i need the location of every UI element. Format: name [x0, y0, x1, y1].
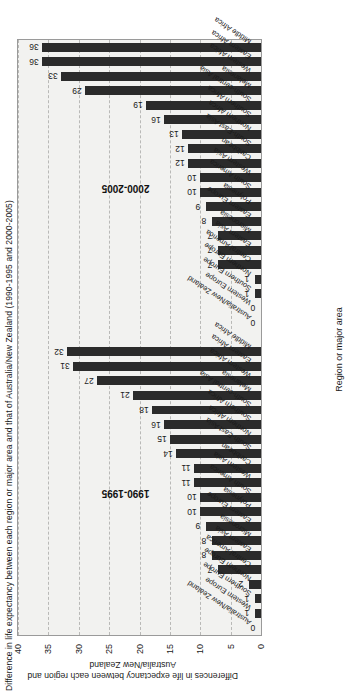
bar-value-label: 29	[72, 86, 81, 96]
bar-value-label: 13	[169, 129, 178, 139]
bar	[255, 609, 261, 618]
value-tick-15: 15	[165, 644, 175, 654]
bar-value-label: 10	[188, 187, 197, 197]
bar	[255, 289, 261, 298]
bar	[249, 580, 261, 589]
bar-value-label: 32	[54, 347, 63, 357]
value-tick-5: 5	[226, 644, 236, 649]
bar-value-label: 18	[139, 405, 148, 415]
bar-value-label: 11	[182, 478, 191, 488]
bar-value-label: 15	[157, 434, 166, 444]
bar-value-label: 8	[202, 216, 207, 226]
bar	[255, 275, 261, 284]
value-tick-0: 0	[256, 644, 266, 649]
value-axis-title: Differences in life expectancy between e…	[8, 659, 258, 680]
value-tick-40: 40	[13, 644, 23, 654]
bar-value-label: 0	[251, 303, 256, 313]
bar-value-label: 12	[175, 158, 184, 168]
value-tick-35: 35	[43, 644, 53, 654]
bar-value-label: 14	[163, 449, 172, 459]
value-tick-25: 25	[104, 644, 114, 654]
bar-value-label: 19	[133, 100, 142, 110]
bar-value-label: 12	[175, 144, 184, 154]
value-tick-30: 30	[74, 644, 84, 654]
chart-title: Difference in life expectancy between ea…	[4, 200, 14, 691]
bar-value-label: 36	[30, 57, 39, 67]
bar-value-label: 36	[30, 42, 39, 52]
panel-label-1990-1995: 1990-1995	[102, 487, 150, 498]
bar-value-label: 27	[84, 376, 93, 386]
bar-value-label: 10	[188, 507, 197, 517]
panel-label-2000-2005: 2000-2005	[102, 183, 150, 194]
bar-value-label: 33	[48, 71, 57, 81]
category-axis-title: Region or major area	[334, 0, 344, 699]
bar-value-label: 11	[182, 463, 191, 473]
bar-value-label: 10	[188, 492, 197, 502]
value-tick-10: 10	[195, 644, 205, 654]
bar-value-label: 0	[251, 318, 256, 328]
bar-value-label: 10	[188, 173, 197, 183]
chart-figure: Difference in life expectancy between ea…	[0, 0, 347, 699]
bar-slot: 0	[18, 620, 261, 635]
rotated-page-wrapper: Difference in life expectancy between ea…	[0, 0, 347, 699]
bar-value-label: 21	[121, 391, 130, 401]
bar	[255, 594, 261, 603]
value-tick-20: 20	[135, 644, 145, 654]
bar-value-label: 9	[196, 202, 201, 212]
bar-value-label: 16	[151, 420, 160, 430]
bar-value-label: 9	[196, 521, 201, 531]
value-axis: Differences in life expectancy between e…	[17, 636, 262, 699]
bar-value-label: 16	[151, 115, 160, 125]
bar-value-label: 0	[251, 623, 256, 633]
bar-value-label: 31	[60, 361, 69, 371]
